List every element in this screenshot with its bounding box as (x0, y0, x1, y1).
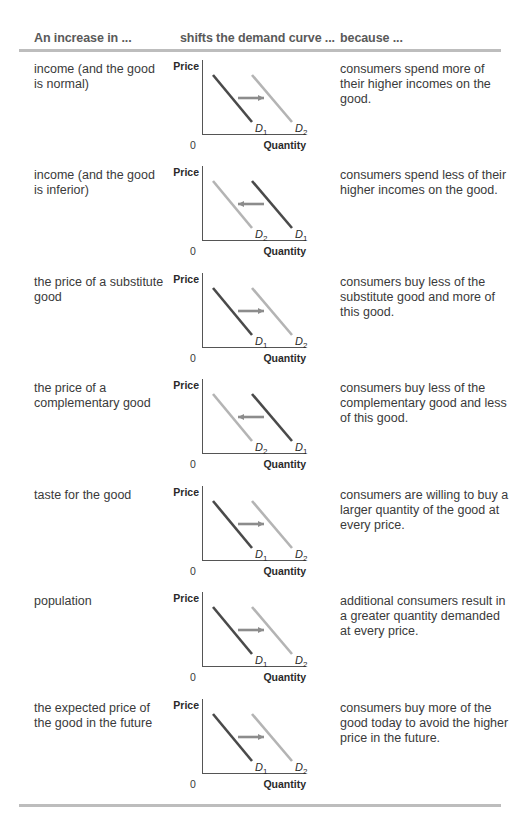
reason-text: consumers buy less of the complementary … (340, 381, 510, 426)
demand-shift-chart: Price0QuantityD2D1 (160, 160, 320, 260)
reason-text: consumers are willing to buy a larger qu… (340, 488, 510, 533)
x-axis-label: Quantity (263, 458, 306, 470)
table-row: the expected price of the good in the fu… (0, 701, 526, 807)
table-row: income (and the good is inferior)Price0Q… (0, 168, 526, 274)
reason-text: consumers buy less of the substitute goo… (340, 275, 510, 320)
factor-text: the price of a substitute good (34, 275, 164, 305)
demand-shift-chart: Price0QuantityD1D2 (160, 693, 320, 793)
origin-label: 0 (190, 245, 196, 257)
factor-text: income (and the good is normal) (34, 62, 164, 92)
arrow-right-icon (238, 627, 264, 633)
table-row: taste for the goodPrice0QuantityD1D2cons… (0, 488, 526, 594)
arrow-right-icon (238, 95, 264, 101)
y-axis-label: Price (173, 60, 199, 72)
demand-shift-chart: Price0QuantityD1D2 (160, 54, 320, 154)
arrow-left-icon (238, 414, 264, 420)
y-axis-label: Price (173, 486, 199, 498)
x-axis-label: Quantity (263, 778, 306, 790)
factor-text: income (and the good is inferior) (34, 168, 164, 198)
demand-shift-chart: Price0QuantityD2D1 (160, 373, 320, 473)
header-rule (19, 49, 501, 52)
reason-text: additional consumers result in a greater… (340, 594, 510, 639)
header-col-factor: An increase in ... (34, 31, 132, 45)
header-col-shift: shifts the demand curve ... (180, 31, 335, 45)
demand-shift-chart: Price0QuantityD1D2 (160, 586, 320, 686)
origin-label: 0 (190, 352, 196, 364)
factor-text: the price of a complementary good (34, 381, 164, 411)
factor-text: taste for the good (34, 488, 164, 503)
origin-label: 0 (190, 458, 196, 470)
y-axis-label: Price (173, 592, 199, 604)
x-axis-label: Quantity (263, 352, 306, 364)
y-axis-label: Price (173, 273, 199, 285)
y-axis-label: Price (173, 166, 199, 178)
header-col-reason: because ... (340, 31, 403, 45)
table-row: populationPrice0QuantityD1D2additional c… (0, 594, 526, 700)
arrow-right-icon (238, 308, 264, 314)
x-axis-label: Quantity (263, 245, 306, 257)
reason-text: consumers buy more of the good today to … (340, 701, 510, 746)
reason-text: consumers spend less of their higher inc… (340, 168, 510, 198)
demand-shift-chart: Price0QuantityD1D2 (160, 480, 320, 580)
origin-label: 0 (190, 671, 196, 683)
arrow-right-icon (238, 734, 264, 740)
demand-shift-chart: Price0QuantityD1D2 (160, 267, 320, 367)
x-axis-label: Quantity (263, 139, 306, 151)
x-axis-label: Quantity (263, 671, 306, 683)
factor-text: the expected price of the good in the fu… (34, 701, 164, 731)
table-row: income (and the good is normal)Price0Qua… (0, 62, 526, 168)
origin-label: 0 (190, 778, 196, 790)
table-row: the price of a substitute goodPrice0Quan… (0, 275, 526, 381)
y-axis-label: Price (173, 379, 199, 391)
y-axis-label: Price (173, 699, 199, 711)
arrow-right-icon (238, 521, 264, 527)
origin-label: 0 (190, 139, 196, 151)
arrow-left-icon (238, 201, 264, 207)
factor-text: population (34, 594, 164, 609)
origin-label: 0 (190, 565, 196, 577)
x-axis-label: Quantity (263, 565, 306, 577)
reason-text: consumers spend more of their higher inc… (340, 62, 510, 107)
table-row: the price of a complementary goodPrice0Q… (0, 381, 526, 487)
footer-rule (19, 804, 501, 807)
